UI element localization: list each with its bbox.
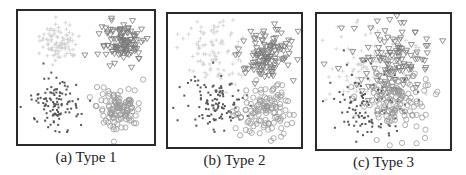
scatter-points — [18, 11, 154, 144]
series-triangle-down — [82, 16, 150, 70]
panel-caption: (a) Type 1 — [16, 149, 156, 166]
scatter-plot-type-2 — [166, 12, 303, 149]
series-dot — [172, 62, 252, 133]
series-circle — [230, 78, 296, 144]
scatter-plot-type-3 — [315, 12, 452, 151]
series-cross-faint — [37, 15, 81, 67]
scatter-points — [317, 14, 450, 149]
scatter-points — [168, 14, 301, 147]
series-triangle-down — [233, 22, 301, 87]
scatter-plot-type-1 — [16, 9, 156, 146]
panel-caption: (b) Type 2 — [166, 152, 303, 169]
series-circle — [87, 77, 145, 144]
series-cross-faint — [175, 18, 259, 96]
series-dot — [20, 63, 91, 134]
panel-caption: (c) Type 3 — [315, 154, 452, 171]
